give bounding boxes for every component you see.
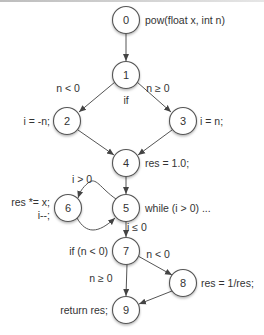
node-5: 5: [113, 195, 140, 222]
node-4: 4: [113, 150, 140, 177]
node-9: 9: [113, 297, 140, 324]
node-7: 7: [113, 238, 140, 265]
node-label: 9: [123, 304, 129, 316]
node-8: 8: [170, 270, 197, 297]
edge-1-2-label: n < 0: [56, 82, 80, 94]
node-label: 3: [180, 115, 186, 127]
node-3: 3: [170, 108, 197, 135]
edge-8-9: [139, 291, 172, 304]
node-label: 1: [123, 69, 129, 81]
edge-5-7-label: i ≤ 0: [127, 221, 147, 233]
node-label: 4: [123, 157, 129, 169]
edge-1-3-label: n ≥ 0: [146, 82, 169, 94]
node-1: 1: [113, 62, 140, 89]
node-3-annotation: i = n;: [200, 115, 223, 127]
node-0: 0: [113, 7, 140, 34]
node-0-annotation: pow(float x, int n): [145, 14, 225, 26]
edge-7-8-label: n < 0: [146, 248, 170, 260]
node-label: 2: [64, 115, 70, 127]
node-4-annotation: res = 1.0;: [145, 157, 189, 169]
node-1-annotation: if: [123, 94, 128, 106]
node-label: 8: [180, 277, 186, 289]
node-7-annotation: if (n < 0): [69, 245, 108, 257]
edge-5-6-label: i > 0: [72, 173, 92, 185]
node-6: 6: [55, 195, 82, 222]
edge-6-5: [77, 218, 115, 230]
node-8-annotation: res = 1/res;: [201, 277, 254, 289]
control-flow-diagram: 0123456789 pow(float x, int n)ifi = -n;i…: [0, 0, 264, 335]
edge-2-4: [78, 130, 114, 155]
edge-1-2: [79, 82, 115, 112]
node-2-annotation: i = -n;: [23, 115, 50, 127]
node-label: 7: [123, 245, 129, 257]
node-6-annotation: res *= x;: [11, 196, 50, 208]
node-5-annotation: while (i > 0) ...: [144, 202, 211, 214]
edge-7-9: [126, 264, 127, 296]
node-2: 2: [54, 108, 81, 135]
edge-3-4: [138, 130, 172, 155]
node-6-annotation-2: i--;: [38, 209, 50, 221]
node-9-annotation: return res;: [60, 304, 108, 316]
edge-7-9-label: n ≥ 0: [89, 272, 112, 284]
node-label: 5: [123, 202, 129, 214]
node-label: 0: [123, 14, 129, 26]
node-label: 6: [65, 202, 71, 214]
